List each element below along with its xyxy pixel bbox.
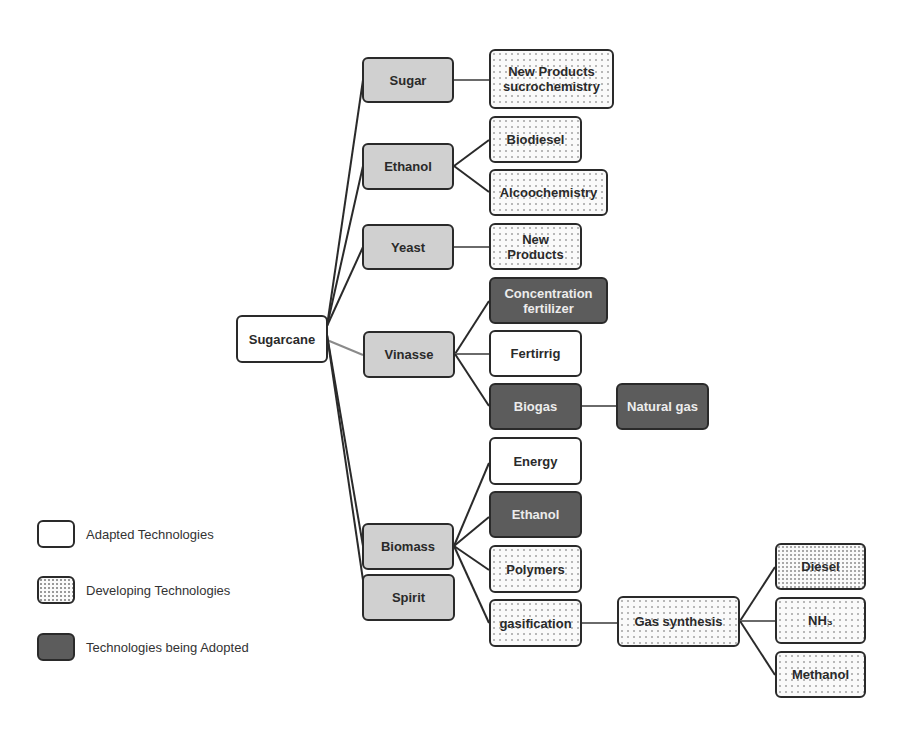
edge-ethanol-to-alcoochemistry bbox=[454, 166, 489, 192]
node-polymers: Polymers bbox=[489, 545, 582, 593]
edge-gas-synthesis-to-diesel bbox=[740, 567, 775, 621]
node-new-products: New Products bbox=[489, 223, 582, 270]
sugarcane-technology-diagram: SugarcaneSugarEthanolYeastVinasseBiomass… bbox=[0, 0, 902, 735]
node-new-products-sucrochemistry: New Products sucrochemistry bbox=[489, 49, 614, 109]
node-label: Methanol bbox=[792, 667, 849, 682]
legend-label: Developing Technologies bbox=[86, 583, 230, 598]
edge-vinasse-to-concentration-fertilizer bbox=[455, 301, 489, 354]
edge-sugarcane-to-sugar bbox=[327, 80, 363, 326]
edge-sugarcane-to-spirit bbox=[327, 335, 363, 580]
node-nh3: NH₃ bbox=[775, 597, 866, 644]
node-label: Natural gas bbox=[627, 399, 698, 414]
node-yeast: Yeast bbox=[362, 224, 454, 270]
node-label: Energy bbox=[513, 454, 557, 469]
node-label: Sugarcane bbox=[249, 332, 315, 347]
edge-sugarcane-to-vinasse bbox=[327, 340, 363, 355]
node-label: Alcoochemistry bbox=[500, 185, 598, 200]
node-label: Sugar bbox=[390, 73, 427, 88]
node-natural-gas: Natural gas bbox=[616, 383, 709, 430]
node-label: Yeast bbox=[391, 240, 425, 255]
legend-swatch-adopting-icon bbox=[37, 633, 75, 661]
node-label: New Products sucrochemistry bbox=[503, 64, 600, 94]
edge-sugarcane-to-ethanol bbox=[327, 166, 363, 326]
node-label: NH₃ bbox=[808, 613, 833, 628]
edge-gas-synthesis-to-methanol bbox=[740, 621, 775, 675]
node-sugarcane: Sugarcane bbox=[236, 315, 328, 363]
legend-item-developing: Developing Technologies bbox=[37, 575, 230, 605]
node-label: Concentration fertilizer bbox=[504, 286, 592, 316]
node-fertirrig: Fertirrig bbox=[489, 330, 582, 377]
legend-label: Adapted Technologies bbox=[86, 527, 214, 542]
node-diesel: Diesel bbox=[775, 543, 866, 590]
node-label: Fertirrig bbox=[511, 346, 561, 361]
node-label: Vinasse bbox=[385, 347, 434, 362]
node-gasification: gasification bbox=[489, 599, 582, 647]
node-label: gasification bbox=[499, 616, 571, 631]
legend-item-adopting: Technologies being Adopted bbox=[37, 632, 249, 662]
node-label: Ethanol bbox=[512, 507, 560, 522]
node-label: Spirit bbox=[392, 590, 425, 605]
edge-ethanol-to-biodiesel bbox=[454, 140, 489, 166]
node-ethanol: Ethanol bbox=[362, 143, 454, 190]
node-sugar: Sugar bbox=[362, 57, 454, 103]
node-label: Polymers bbox=[506, 562, 565, 577]
node-label: New Products bbox=[507, 232, 563, 262]
node-spirit: Spirit bbox=[362, 574, 455, 621]
node-label: Biodiesel bbox=[507, 132, 565, 147]
edge-vinasse-to-biogas bbox=[455, 354, 489, 406]
node-energy: Energy bbox=[489, 437, 582, 485]
node-label: Gas synthesis bbox=[634, 614, 722, 629]
node-label: Biogas bbox=[514, 399, 557, 414]
node-biodiesel: Biodiesel bbox=[489, 116, 582, 163]
legend-label: Technologies being Adopted bbox=[86, 640, 249, 655]
legend-item-adapted: Adapted Technologies bbox=[37, 519, 214, 549]
node-label: Ethanol bbox=[384, 159, 432, 174]
edge-biomass-to-energy bbox=[454, 463, 489, 546]
node-gas-synthesis: Gas synthesis bbox=[617, 596, 740, 647]
node-biogas: Biogas bbox=[489, 383, 582, 430]
legend-swatch-developing-icon bbox=[37, 576, 75, 604]
node-biomass: Biomass bbox=[362, 523, 454, 570]
node-concentration-fertilizer: Concentration fertilizer bbox=[489, 277, 608, 324]
node-vinasse: Vinasse bbox=[363, 331, 455, 378]
node-label: Biomass bbox=[381, 539, 435, 554]
node-ethanol-biomass: Ethanol bbox=[489, 491, 582, 538]
node-alcoochemistry: Alcoochemistry bbox=[489, 169, 608, 216]
legend-swatch-adapted-icon bbox=[37, 520, 75, 548]
node-methanol: Methanol bbox=[775, 651, 866, 698]
node-label: Diesel bbox=[801, 559, 839, 574]
